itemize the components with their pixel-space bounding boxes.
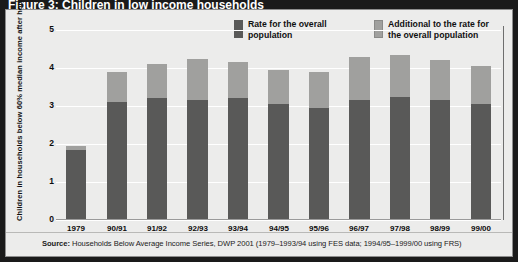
x-axis-line: [56, 219, 501, 220]
y-axis-tick-label: 3: [42, 100, 54, 110]
bar-segment-overall[interactable]: [390, 97, 410, 221]
bar-slot[interactable]: [464, 30, 498, 220]
plot-area: 012345 197990/9191/9292/9393/9494/9595/9…: [56, 30, 501, 220]
bar-slot[interactable]: [423, 30, 457, 220]
bar-stack[interactable]: [228, 62, 248, 220]
bar-segment-additional[interactable]: [268, 70, 288, 104]
bar-segment-additional[interactable]: [471, 66, 491, 104]
bar-segment-additional[interactable]: [390, 55, 410, 97]
bar-slot[interactable]: [59, 30, 93, 220]
bar-segment-additional[interactable]: [349, 57, 369, 101]
source-label: Source:: [42, 239, 70, 248]
bar-segment-overall[interactable]: [268, 104, 288, 220]
bar-slot[interactable]: [100, 30, 134, 220]
bar-segment-overall[interactable]: [228, 98, 248, 220]
bar-slot[interactable]: [383, 30, 417, 220]
y-axis-tick-label: 5: [42, 24, 54, 34]
bar-segment-additional[interactable]: [147, 64, 167, 98]
figure-container: Figure 3: Children in low income househo…: [0, 0, 518, 262]
y-axis-tick-label: 2: [42, 138, 54, 148]
bar-segment-additional[interactable]: [187, 59, 207, 101]
bar-segment-overall[interactable]: [349, 100, 369, 220]
bar-segment-additional[interactable]: [228, 62, 248, 98]
bar-stack[interactable]: [309, 72, 329, 220]
gridline: [56, 220, 501, 221]
bar-stack[interactable]: [430, 60, 450, 220]
y-axis-tick-label: 4: [42, 62, 54, 72]
source-text: Households Below Average Income Series, …: [70, 239, 462, 248]
bar-segment-overall[interactable]: [309, 108, 329, 220]
figure-title: Figure 3: Children in low income househo…: [0, 0, 518, 9]
bar-segment-additional[interactable]: [309, 72, 329, 108]
bar-slot[interactable]: [342, 30, 376, 220]
bar-group: [56, 30, 501, 220]
bar-stack[interactable]: [107, 72, 127, 220]
bar-slot[interactable]: [262, 30, 296, 220]
bar-segment-additional[interactable]: [107, 72, 127, 102]
bar-slot[interactable]: [302, 30, 336, 220]
y-axis-label-container: Children in households below 60% median …: [6, 18, 32, 223]
chart-panel: Children in households below 60% median …: [5, 9, 513, 257]
y-axis-label: Children in households below 60% median …: [15, 21, 24, 221]
y-axis-tick-label: 0: [42, 214, 54, 224]
bar-stack[interactable]: [147, 64, 167, 220]
bar-segment-overall[interactable]: [430, 100, 450, 220]
bar-stack[interactable]: [187, 59, 207, 220]
bar-stack[interactable]: [268, 70, 288, 220]
source-note: Source: Households Below Average Income …: [42, 239, 462, 248]
bar-slot[interactable]: [140, 30, 174, 220]
bar-slot[interactable]: [221, 30, 255, 220]
bar-stack[interactable]: [349, 57, 369, 220]
right-axis-line: [503, 26, 504, 220]
bar-segment-overall[interactable]: [187, 100, 207, 220]
bar-stack[interactable]: [66, 146, 86, 220]
y-axis-tick-label: 1: [42, 176, 54, 186]
bar-segment-additional[interactable]: [430, 60, 450, 100]
bar-segment-overall[interactable]: [107, 102, 127, 220]
bar-stack[interactable]: [471, 66, 491, 220]
bar-segment-overall[interactable]: [66, 150, 86, 220]
source-divider: [6, 232, 512, 233]
bar-stack[interactable]: [390, 55, 410, 220]
bar-slot[interactable]: [181, 30, 215, 220]
bar-segment-overall[interactable]: [471, 104, 491, 220]
bar-segment-overall[interactable]: [147, 98, 167, 220]
